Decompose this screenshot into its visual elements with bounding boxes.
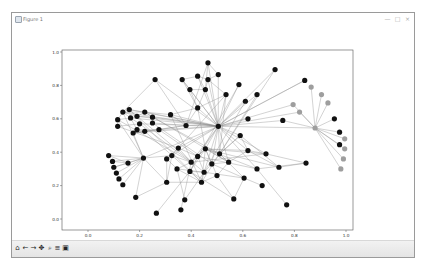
graph-edge bbox=[218, 95, 226, 127]
graph-edge bbox=[177, 169, 185, 200]
graph-edge bbox=[315, 128, 340, 132]
y-tick-label: 0.2 bbox=[52, 183, 59, 188]
graph-node bbox=[134, 127, 139, 132]
graph-edge bbox=[190, 90, 198, 108]
graph-node bbox=[280, 118, 285, 123]
graph-edge bbox=[315, 128, 340, 145]
navigation-toolbar: ⌂←→✥⌕≡▣ bbox=[12, 240, 414, 257]
graph-edge bbox=[315, 103, 328, 128]
graph-node bbox=[245, 148, 250, 153]
maximize-button[interactable]: □ bbox=[393, 14, 402, 24]
zoom-icon: ⌕ bbox=[48, 244, 52, 253]
graph-node bbox=[195, 154, 200, 159]
graph-node bbox=[189, 160, 194, 165]
zoom-button[interactable]: ⌕ bbox=[46, 244, 53, 253]
y-tick-label: 0.0 bbox=[52, 217, 59, 222]
network-plot[interactable]: 0.00.20.40.60.81.00.00.20.40.60.81.0 bbox=[12, 25, 414, 241]
graph-edge bbox=[208, 63, 218, 126]
graph-edge bbox=[244, 178, 262, 186]
graph-node bbox=[114, 170, 119, 175]
graph-node bbox=[214, 173, 219, 178]
graph-node bbox=[337, 130, 342, 135]
graph-node bbox=[142, 110, 147, 115]
graph-node bbox=[238, 133, 243, 138]
graph-node bbox=[142, 129, 147, 134]
home-icon: ⌂ bbox=[15, 244, 19, 253]
figure-canvas[interactable]: 0.00.20.40.60.81.00.00.20.40.60.81.0 bbox=[12, 25, 414, 241]
graph-node bbox=[154, 211, 159, 216]
graph-edge bbox=[182, 80, 197, 108]
graph-node bbox=[291, 102, 296, 107]
x-tick-label: 1.0 bbox=[343, 233, 350, 238]
graph-node bbox=[241, 175, 246, 180]
save-button[interactable]: ▣ bbox=[62, 244, 69, 253]
graph-node bbox=[150, 120, 155, 125]
graph-node bbox=[127, 107, 132, 112]
graph-node bbox=[203, 87, 208, 92]
graph-node bbox=[203, 146, 208, 151]
graph-node bbox=[325, 100, 330, 105]
graph-node bbox=[133, 195, 138, 200]
minimize-button[interactable]: — bbox=[383, 14, 392, 24]
graph-edge bbox=[300, 112, 315, 128]
graph-node bbox=[231, 196, 236, 201]
graph-node bbox=[164, 180, 169, 185]
graph-node bbox=[176, 145, 181, 150]
graph-edge bbox=[204, 172, 244, 178]
graph-node bbox=[115, 124, 120, 129]
graph-node bbox=[236, 82, 241, 87]
graph-node bbox=[187, 169, 192, 174]
graph-node bbox=[337, 142, 342, 147]
graph-node bbox=[297, 110, 302, 115]
graph-node bbox=[120, 110, 125, 115]
graph-node bbox=[183, 123, 188, 128]
graph-edge bbox=[143, 158, 166, 182]
graph-node bbox=[116, 176, 121, 181]
graph-node bbox=[216, 124, 221, 129]
graph-edge bbox=[234, 178, 244, 199]
graph-node bbox=[164, 156, 169, 161]
graph-node bbox=[187, 87, 192, 92]
graph-node bbox=[254, 166, 259, 171]
graph-edge bbox=[218, 126, 315, 128]
graph-node bbox=[125, 160, 130, 165]
graph-edge bbox=[257, 163, 306, 169]
graph-node bbox=[115, 117, 120, 122]
graph-node bbox=[226, 160, 231, 165]
graph-node bbox=[199, 180, 204, 185]
graph-node bbox=[243, 99, 248, 104]
graph-node bbox=[276, 165, 281, 170]
y-tick-label: 0.8 bbox=[52, 83, 59, 88]
back-button[interactable]: ← bbox=[22, 244, 29, 253]
home-button[interactable]: ⌂ bbox=[14, 244, 21, 253]
graph-node bbox=[332, 116, 337, 121]
graph-node bbox=[169, 153, 174, 158]
subplots-button[interactable]: ≡ bbox=[54, 244, 61, 253]
graph-node bbox=[205, 77, 210, 82]
graph-node bbox=[182, 197, 187, 202]
figure-window: Figure 1 — □ × 0.00.20.40.60.81.00.00.20… bbox=[11, 12, 415, 258]
graph-edge bbox=[155, 80, 186, 126]
graph-edge bbox=[311, 87, 315, 128]
y-tick-label: 0.4 bbox=[52, 150, 59, 155]
graph-node bbox=[216, 72, 221, 77]
graph-node bbox=[110, 159, 115, 164]
graph-node bbox=[209, 161, 214, 166]
graph-node bbox=[137, 121, 142, 126]
graph-node bbox=[341, 156, 346, 161]
pan-button[interactable]: ✥ bbox=[38, 244, 45, 253]
graph-node bbox=[141, 155, 146, 160]
graph-edge bbox=[279, 163, 306, 167]
graph-edge bbox=[315, 128, 341, 169]
title-bar[interactable]: Figure 1 — □ × bbox=[12, 13, 414, 25]
graph-edge bbox=[283, 120, 315, 128]
close-button[interactable]: × bbox=[403, 14, 412, 24]
graph-edge bbox=[136, 182, 167, 197]
graph-node bbox=[120, 182, 125, 187]
graph-node bbox=[260, 183, 265, 188]
graph-edge bbox=[248, 151, 279, 168]
graph-edge bbox=[315, 95, 321, 128]
graph-node bbox=[272, 67, 277, 72]
forward-button[interactable]: → bbox=[30, 244, 37, 253]
graph-node bbox=[111, 165, 116, 170]
